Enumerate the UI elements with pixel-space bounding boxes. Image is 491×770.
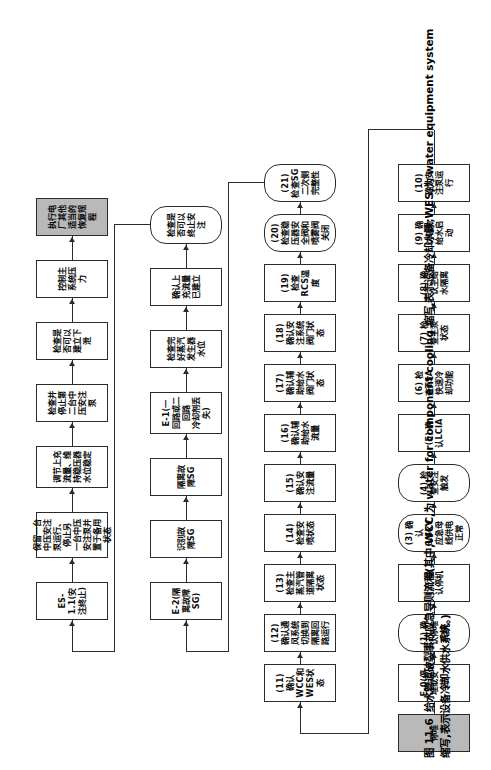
node-step-13-label: (13) 检查主蒸汽管道隔离状态 bbox=[275, 568, 325, 598]
node-check-si-termination[interactable]: 检查是否可以终止安注 bbox=[150, 206, 222, 244]
connector-wrap-3 bbox=[114, 224, 150, 225]
arrow-right-icon bbox=[297, 253, 303, 258]
arrow-right-icon bbox=[183, 497, 189, 502]
arrow-right-icon bbox=[297, 603, 303, 608]
arrow-right-icon bbox=[69, 621, 75, 626]
arrow-right-icon bbox=[69, 237, 75, 242]
node-step-14[interactable]: (14) 检查安喷状态 bbox=[264, 514, 336, 552]
connector-wrap-1 bbox=[368, 130, 369, 734]
node-step-11[interactable]: (11) 确认WCC和WES状态 bbox=[264, 664, 336, 702]
node-step-13[interactable]: (13) 检查主蒸汽管道隔离状态 bbox=[264, 564, 336, 602]
figure-number: 图 11-6 bbox=[423, 718, 435, 758]
node-check-letdown[interactable]: 检查是否可以建立下泄 bbox=[36, 322, 108, 360]
node-confirm-charging-flow-label: 确认上充流量已建立 bbox=[171, 272, 201, 302]
node-control-primary-pressure-label: 控制主系统压力 bbox=[57, 264, 87, 294]
node-isolate-faulted-sg[interactable]: 隔离故障SG bbox=[150, 458, 222, 496]
node-step-20[interactable]: (20) 检查稳压器安全阀和喷雾阀关闭 bbox=[264, 214, 336, 252]
node-check-sg-level[interactable]: 检查完好蒸汽发生器水位 bbox=[150, 330, 222, 368]
connector-wrap-2 bbox=[228, 183, 229, 652]
node-identify-faulted-sg[interactable]: 识别故障SG bbox=[150, 520, 222, 558]
node-step-17-label: (17) 确认辅助给水阀门状态 bbox=[275, 368, 325, 398]
node-check-si-termination-label: 检查是否可以终止安注 bbox=[166, 210, 206, 240]
arrow-right-icon bbox=[297, 303, 303, 308]
node-e2[interactable]: E-2(隔离故障SG) bbox=[150, 582, 222, 620]
node-step-18[interactable]: (18) 确认安注系统阀门状态 bbox=[264, 314, 336, 352]
arrow-right-icon bbox=[297, 553, 303, 558]
node-e1[interactable]: E-1(一回路或二回路 冷却剂丢失) bbox=[150, 392, 222, 434]
arrow-right-icon bbox=[69, 559, 75, 564]
flowchart-canvas: 停堆 E-0(停堆或安注) (1) 确认停堆完成 (2) 确认停机 (3) 确认… bbox=[0, 0, 491, 770]
arrow-right-icon bbox=[297, 503, 303, 508]
arrow-right-icon bbox=[297, 703, 303, 708]
node-e2-label: E-2(隔离故障SG) bbox=[171, 586, 201, 616]
node-step-11-label: (11) 确认WCC和WES状态 bbox=[275, 668, 325, 698]
node-stop-second-mp-si-pump-label: 检查并停止第二台中压安注泵 bbox=[47, 388, 97, 418]
node-keep-one-mp-si-pump[interactable]: 保留一台中压安注泵运行、停止另 一台中压安注泵并置于备用状态 bbox=[36, 512, 108, 558]
connector-wrap-3 bbox=[72, 651, 114, 652]
figure-caption-text: 给水管道破裂事故应急导则流程(其中,WCC,为 water for compon… bbox=[423, 29, 451, 758]
node-step-17[interactable]: (17) 确认辅助给水阀门状态 bbox=[264, 364, 336, 402]
arrow-right-icon bbox=[183, 435, 189, 440]
connector-wrap-2 bbox=[228, 182, 264, 183]
arrow-right-icon bbox=[297, 203, 303, 208]
connector-wrap-1 bbox=[300, 733, 368, 734]
node-step-16[interactable]: (16) 确认辅助给水流量 bbox=[264, 414, 336, 452]
arrow-right-icon bbox=[297, 453, 303, 458]
node-stop-second-mp-si-pump[interactable]: 检查并停止第二台中压安注泵 bbox=[36, 384, 108, 422]
arrow-right-icon bbox=[69, 299, 75, 304]
node-isolate-faulted-sg-label: 隔离故障SG bbox=[176, 462, 196, 492]
node-step-12-label: (12) 确认通风系统切换到隔离回路运行 bbox=[270, 618, 330, 648]
arrow-right-icon bbox=[183, 559, 189, 564]
node-adjust-charging-flow-label: 调节上充流量、维持稳压器 水位稳定 bbox=[52, 450, 92, 484]
arrow-right-icon bbox=[297, 353, 303, 358]
figure-caption: 图 11-6给水管道破裂事故应急导则流程(其中,WCC,为 water for … bbox=[419, 18, 485, 758]
arrow-right-icon bbox=[183, 369, 189, 374]
node-check-letdown-label: 检查是否可以建立下泄 bbox=[52, 326, 92, 356]
node-keep-one-mp-si-pump-label: 保留一台中压安注泵运行、停止另 一台中压安注泵并置于备用状态 bbox=[32, 516, 112, 554]
node-step-12[interactable]: (12) 确认通风系统切换到隔离回路运行 bbox=[264, 614, 336, 652]
node-step-14-label: (14) 检查安喷状态 bbox=[285, 518, 315, 548]
node-step-18-label: (18) 确认安注系统阀门状态 bbox=[275, 318, 325, 348]
arrow-right-icon bbox=[69, 423, 75, 428]
node-control-primary-pressure[interactable]: 控制主系统压力 bbox=[36, 260, 108, 298]
node-execute-recovery-procedure[interactable]: 执行电厂其他适当的恢复规程 bbox=[36, 198, 108, 236]
node-es-1-1-label: ES-1.1(安注终止) bbox=[57, 586, 87, 616]
arrow-right-icon bbox=[69, 361, 75, 366]
arrow-right-icon bbox=[183, 245, 189, 250]
node-check-sg-level-label: 检查完好蒸汽发生器水位 bbox=[166, 334, 206, 364]
node-step-20-label: (20) 检查稳压器安全阀和喷雾阀关闭 bbox=[270, 218, 330, 248]
node-step-19[interactable]: (19) 检查RCS温度 bbox=[264, 264, 336, 302]
arrow-right-icon bbox=[69, 489, 75, 494]
node-step-16-label: (16) 确认辅助给水流量 bbox=[280, 418, 320, 448]
node-step-15[interactable]: (15) 确认安注流量 bbox=[264, 464, 336, 502]
node-confirm-charging-flow[interactable]: 确认上充流量已建立 bbox=[150, 268, 222, 306]
node-e1-label: E-1(一回路或二回路 冷却剂丢失) bbox=[161, 396, 211, 430]
arrow-right-icon bbox=[183, 307, 189, 312]
arrow-right-icon bbox=[297, 403, 303, 408]
node-step-21[interactable]: (21) 检查SG二次侧完整性 bbox=[264, 164, 336, 202]
flowchart-figure: 停堆 E-0(停堆或安注) (1) 确认停堆完成 (2) 确认停机 (3) 确认… bbox=[0, 0, 491, 770]
node-adjust-charging-flow[interactable]: 调节上充流量、维持稳压器 水位稳定 bbox=[36, 446, 108, 488]
arrow-right-icon bbox=[297, 653, 303, 658]
connector-wrap-2 bbox=[186, 651, 228, 652]
node-step-15-label: (15) 确认安注流量 bbox=[285, 468, 315, 498]
node-identify-faulted-sg-label: 识别故障SG bbox=[176, 524, 196, 554]
arrow-right-icon bbox=[183, 621, 189, 626]
node-step-19-label: (19) 检查RCS温度 bbox=[280, 268, 320, 298]
connector-wrap-3 bbox=[114, 225, 115, 652]
node-es-1-1[interactable]: ES-1.1(安注终止) bbox=[36, 582, 108, 620]
node-step-21-label: (21) 检查SG二次侧完整性 bbox=[280, 168, 320, 198]
node-execute-recovery-procedure-label: 执行电厂其他适当的恢复规程 bbox=[47, 202, 97, 232]
